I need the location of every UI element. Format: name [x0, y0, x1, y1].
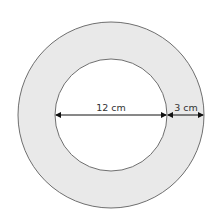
inner-diameter-label: 12 cm	[96, 102, 126, 113]
ring-width-label: 3 cm	[174, 102, 198, 113]
annulus-diagram: 12 cm 3 cm	[0, 0, 219, 221]
